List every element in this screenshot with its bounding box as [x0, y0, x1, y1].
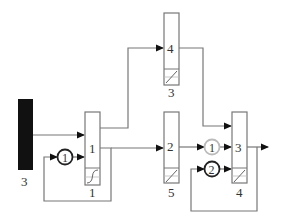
block-4-inner-label: 4: [167, 41, 174, 56]
block-1-label: 1: [89, 185, 96, 200]
block-2: 2 5: [164, 112, 179, 200]
source-bar: 3: [18, 99, 33, 189]
circle-right-1-label: 1: [209, 141, 215, 155]
connector-feedback-left: [44, 148, 111, 201]
circle-left-1-label: 1: [62, 151, 68, 165]
block-2-label: 5: [168, 185, 175, 200]
source-label: 3: [21, 174, 28, 189]
block-3-inner-label: 3: [235, 140, 242, 155]
block-4: 4 3: [164, 13, 179, 100]
circle-left-1: 1: [58, 150, 73, 165]
connector-block-1-to-block-4: [100, 48, 163, 128]
block-2-inner-label: 2: [167, 139, 174, 154]
block-1-inner-label: 1: [89, 141, 96, 156]
block-1: 1 1: [85, 112, 100, 200]
circle-right-1: 1: [205, 140, 220, 155]
circle-right-2-label: 2: [209, 163, 215, 177]
block-diagram: 3 1 1 4: [0, 0, 282, 224]
block-4-label: 3: [168, 85, 175, 100]
block-3-label: 4: [236, 185, 243, 200]
connector-block-4-to-block-3: [179, 48, 231, 126]
block-3: 3 4: [232, 112, 247, 200]
circle-right-2: 2: [205, 162, 220, 177]
